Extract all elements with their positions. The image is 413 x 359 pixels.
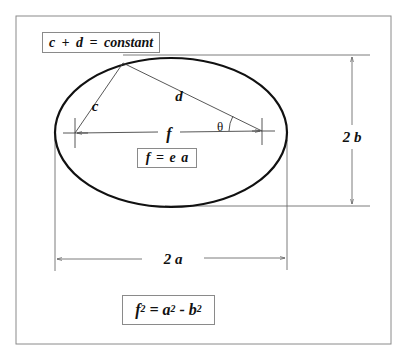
label-2a: 2 a [160,252,187,267]
relation-eq-a: = a [145,301,170,319]
label-f: f [162,126,175,142]
relation-a-exponent: 2 [171,303,176,314]
relation-f-exponent: 2 [141,303,146,314]
equation-constant-sum: c + d = constant [42,32,160,53]
label-d: d [175,89,183,104]
equation-constant-sum-text: c + d = constant [49,35,153,51]
equation-ellipse-relation: f2 = a2 - b2 [122,295,215,325]
label-theta: θ [217,120,223,133]
equation-focal-distance: f = e a [137,148,197,168]
relation-minus-b: - b [176,301,197,319]
equation-focal-distance-text: f = e a [146,150,188,166]
f-line-left [77,132,158,133]
theta-arc [229,116,233,131]
label-2b: 2 b [342,128,363,147]
label-c: c [92,99,99,114]
relation-b-exponent: 2 [197,303,202,314]
